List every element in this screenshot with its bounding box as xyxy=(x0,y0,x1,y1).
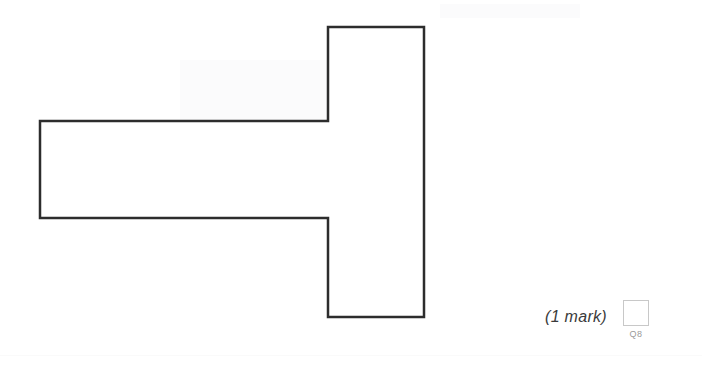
marks-and-answer-row: (1 mark) Q8 xyxy=(545,300,695,360)
question-page: (1 mark) Q8 xyxy=(0,0,702,370)
answer-box[interactable] xyxy=(623,300,649,326)
answer-box-group: Q8 xyxy=(623,300,649,339)
question-number-tag: Q8 xyxy=(629,330,642,339)
mark-allocation-label: (1 mark) xyxy=(545,309,607,325)
t-shape-outline xyxy=(40,27,424,317)
